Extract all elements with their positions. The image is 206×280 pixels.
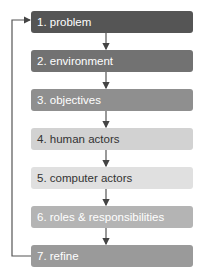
feedback-loop-arrow [12,20,31,256]
step-label: 1. problem [37,16,91,28]
step-1-problem: 1. problem [31,11,193,33]
step-label: 6. roles & responsibilities [37,211,164,223]
step-5-computer-actors: 5. computer actors [31,167,193,189]
step-label: 5. computer actors [37,172,132,184]
step-label: 3. objectives [37,94,101,106]
step-label: 7. refine [37,250,79,262]
step-4-human-actors: 4. human actors [31,128,193,150]
step-6-roles-responsibilities: 6. roles & responsibilities [31,206,193,228]
step-label: 4. human actors [37,133,119,145]
step-2-environment: 2. environment [31,50,193,72]
step-3-objectives: 3. objectives [31,89,193,111]
step-label: 2. environment [37,55,113,67]
step-7-refine: 7. refine [31,245,193,267]
